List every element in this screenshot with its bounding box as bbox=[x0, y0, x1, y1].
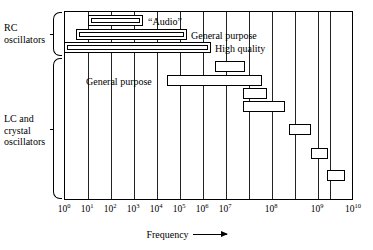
gridline bbox=[88, 12, 89, 199]
bar-lc-band-5 bbox=[289, 124, 311, 135]
bar-lc-band-3 bbox=[243, 88, 267, 99]
xtick-1e2: 102 bbox=[104, 205, 117, 215]
xtick-1e6: 106 bbox=[196, 205, 209, 215]
bar-label-lc-general-purpose: General purpose bbox=[86, 77, 152, 87]
group-label-lc-line3: oscillators bbox=[4, 136, 45, 148]
bar-lc-band-6 bbox=[311, 148, 328, 159]
group-label-lc: LC and crystal oscillators bbox=[4, 113, 45, 148]
gridline bbox=[180, 12, 181, 199]
xtick-1e3: 103 bbox=[127, 205, 140, 215]
oscillator-frequency-chart: RC oscillators LC and crystal oscillator… bbox=[0, 0, 373, 250]
xtick-1e8: 108 bbox=[265, 205, 278, 215]
brace-rc bbox=[53, 12, 62, 56]
xtick-1e1: 101 bbox=[81, 205, 94, 215]
bar-rc-general-purpose-inner bbox=[79, 32, 184, 37]
axis-title-frequency: Frequency bbox=[0, 229, 373, 240]
xtick-1e10: 1010 bbox=[345, 205, 361, 215]
bar-lc-band-7 bbox=[327, 170, 345, 181]
bar-lc-band-1 bbox=[215, 61, 245, 72]
xtick-1e0: 100 bbox=[58, 205, 71, 215]
group-label-rc: RC oscillators bbox=[4, 22, 45, 45]
axis-title-frequency-text: Frequency bbox=[146, 229, 188, 240]
gridline bbox=[157, 12, 158, 199]
group-label-rc-line2: oscillators bbox=[4, 34, 45, 46]
bar-rc-high-quality bbox=[64, 42, 211, 53]
gridline bbox=[134, 12, 135, 199]
group-label-lc-line1: LC and bbox=[4, 113, 45, 125]
bar-lc-general-purpose bbox=[167, 75, 262, 86]
xtick-1e4: 104 bbox=[150, 205, 163, 215]
bar-label-rc-high-quality: High quality bbox=[215, 44, 265, 54]
bar-audio-inner bbox=[91, 18, 140, 23]
gridline bbox=[318, 12, 319, 199]
arrow-icon bbox=[193, 234, 227, 235]
bar-lc-band-4 bbox=[243, 101, 285, 112]
xtick-1e7: 107 bbox=[219, 205, 232, 215]
bar-label-audio: “Audio” bbox=[148, 17, 182, 27]
bar-rc-high-quality-inner bbox=[67, 45, 208, 50]
bar-label-rc-general-purpose: General purpose bbox=[191, 31, 257, 41]
bar-audio bbox=[88, 15, 143, 26]
xtick-1e9: 109 bbox=[311, 205, 324, 215]
gridline bbox=[111, 12, 112, 199]
group-label-rc-line1: RC bbox=[4, 22, 45, 34]
xtick-1e5: 105 bbox=[173, 205, 186, 215]
group-label-lc-line2: crystal bbox=[4, 125, 45, 137]
brace-lc bbox=[53, 58, 62, 199]
gridline bbox=[295, 12, 296, 199]
bar-rc-general-purpose bbox=[76, 29, 187, 40]
